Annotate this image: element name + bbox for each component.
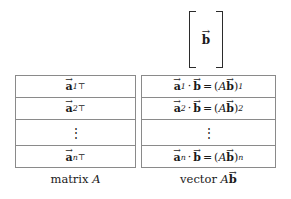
result-vector-b: →b: [226, 81, 234, 92]
matrix-symbol: A: [218, 103, 226, 114]
caption-text: matrix: [50, 172, 88, 186]
equals-sign: =: [201, 103, 214, 114]
product-row-ellipsis: ⋮: [142, 120, 275, 146]
caption-matrix-a: matrix A: [15, 174, 136, 186]
matrix-symbol: A: [218, 152, 226, 163]
vector-letter: a: [174, 102, 181, 115]
vector-letter: b: [226, 80, 234, 93]
result-subscript: 1: [238, 83, 243, 91]
caption-text: vector: [180, 172, 217, 186]
vector-letter: b: [226, 151, 234, 164]
result-subscript: 2: [238, 105, 243, 113]
caption-vector-ab: vector A→b: [141, 174, 276, 186]
transpose-symbol: ⊤: [78, 82, 86, 90]
dot-operator: ·: [186, 103, 193, 114]
equals-sign: =: [201, 81, 214, 92]
matrix-row: →a2⊤: [16, 98, 135, 120]
matrix-a-box: →a1⊤ →a2⊤ ⋮ →an⊤: [15, 75, 136, 168]
transpose-symbol: ⊤: [78, 153, 86, 161]
vector-letter: a: [66, 102, 73, 115]
vector-letter: a: [174, 151, 181, 164]
vector-letter: b: [193, 151, 201, 164]
caption-symbol: A: [92, 172, 100, 186]
vector-b-symbol: →b: [193, 152, 201, 163]
result-subscript: n: [238, 154, 243, 162]
vertical-dots-icon: ⋮: [203, 127, 215, 139]
left-square-bracket-icon: [189, 11, 196, 68]
product-row: →a1·→b=(A→b)1: [142, 76, 275, 98]
vector-letter: b: [193, 80, 201, 93]
product-row: →an·→b=(A→b)n: [142, 146, 275, 169]
input-vector-label: →b: [202, 34, 210, 46]
vector-letter: a: [66, 151, 73, 164]
right-square-bracket-icon: [216, 11, 223, 68]
vertical-dots-icon: ⋮: [70, 127, 82, 139]
result-vector-b: →b: [226, 152, 234, 163]
caption-matrix-symbol: A: [221, 172, 229, 186]
vector-ab-box: →a1·→b=(A→b)1 →a2·→b=(A→b)2 ⋮ →an·→b=(A→…: [141, 75, 276, 168]
caption-vector-b: →b: [229, 174, 237, 186]
vector-letter: a: [174, 80, 181, 93]
row-vector-a2: →a: [174, 103, 181, 114]
vector-b-symbol: →b: [193, 103, 201, 114]
product-row: →a2·→b=(A→b)2: [142, 98, 275, 120]
matrix-row: →an⊤: [16, 146, 135, 169]
row-vector-an: →a: [66, 152, 73, 163]
vector-letter: a: [66, 80, 73, 93]
equals-sign: =: [201, 152, 214, 163]
row-vector-a2: →a: [66, 103, 73, 114]
vector-b-symbol: →b: [202, 34, 210, 46]
vector-letter: b: [193, 102, 201, 115]
result-vector-b: →b: [226, 103, 234, 114]
row-vector-a1: →a: [174, 81, 181, 92]
row-vector-an: →a: [174, 152, 181, 163]
dot-operator: ·: [186, 152, 193, 163]
vector-letter: b: [229, 172, 237, 186]
matrix-row-ellipsis: ⋮: [16, 120, 135, 146]
vector-b-symbol: →b: [193, 81, 201, 92]
matrix-symbol: A: [218, 81, 226, 92]
matrix-row: →a1⊤: [16, 76, 135, 98]
vector-b-letter: b: [202, 33, 210, 47]
input-vector-b: →b: [189, 11, 223, 68]
transpose-symbol: ⊤: [78, 104, 86, 112]
figure-canvas: →b →a1⊤ →a2⊤ ⋮ →an⊤ →a1·→b=(A→b)1 →a2·→b…: [0, 0, 291, 199]
vector-letter: b: [226, 102, 234, 115]
dot-operator: ·: [186, 81, 193, 92]
row-vector-a1: →a: [66, 81, 73, 92]
